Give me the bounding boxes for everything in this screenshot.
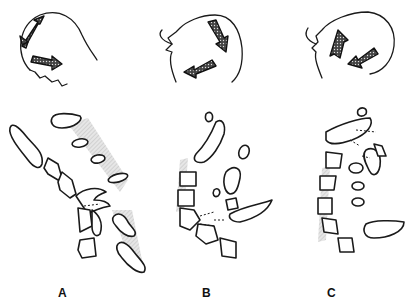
head-outline-a: [21, 13, 97, 86]
head-outline-c: [306, 12, 394, 78]
arrow-icon: [184, 60, 216, 78]
panel-label-c: C: [327, 286, 336, 300]
panel-label-a: A: [58, 286, 67, 300]
panel-b: [160, 15, 272, 258]
arrow-icon: [208, 20, 228, 52]
panel-c: [306, 12, 404, 252]
arrow-icon: [330, 30, 348, 58]
anatomical-figure: [0, 0, 414, 304]
arrow-icon: [31, 56, 62, 70]
panel-label-b: B: [202, 286, 211, 300]
panel-a: [10, 13, 145, 273]
arrow-icon: [348, 48, 378, 68]
